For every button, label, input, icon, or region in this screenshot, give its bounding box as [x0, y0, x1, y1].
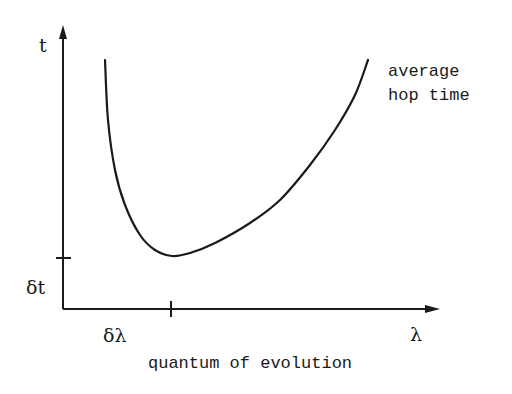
hop-time-diagram: t δt δλ λ quantum of evolution average h…	[0, 0, 512, 394]
hop-time-curve	[105, 60, 368, 256]
curve-label-line1: average	[388, 62, 459, 81]
x-axis-label: λ	[410, 323, 422, 345]
curve-label-line2: hop time	[388, 86, 470, 105]
x-tick-label: δλ	[103, 324, 126, 346]
x-axis-title: quantum of evolution	[148, 354, 352, 373]
y-tick-label: δt	[26, 276, 45, 298]
x-axis-arrow-icon	[425, 305, 440, 313]
y-axis-arrow-icon	[59, 25, 67, 39]
y-axis-label: t	[39, 34, 47, 56]
